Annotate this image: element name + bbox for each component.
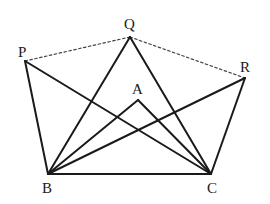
label-C: C bbox=[207, 180, 217, 196]
label-P: P bbox=[18, 44, 26, 60]
geometry-diagram: P Q R A B C bbox=[0, 0, 270, 204]
solid-segments bbox=[25, 37, 245, 174]
dashed-segments bbox=[25, 37, 245, 78]
label-A: A bbox=[132, 81, 143, 97]
segment-PB bbox=[25, 61, 48, 174]
segment-PQ bbox=[25, 37, 130, 61]
label-B: B bbox=[42, 180, 52, 196]
label-R: R bbox=[240, 59, 250, 75]
segment-QR bbox=[130, 37, 245, 78]
label-Q: Q bbox=[124, 16, 135, 32]
